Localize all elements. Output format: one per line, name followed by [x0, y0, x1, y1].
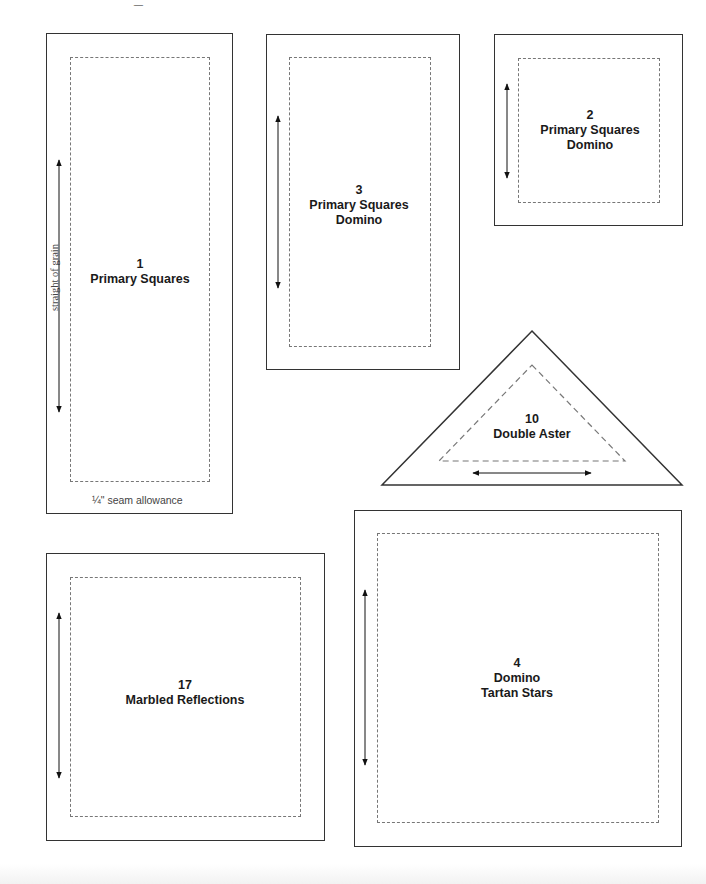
- piece-number: 10: [493, 412, 570, 427]
- piece-10-label: 10 Double Aster: [493, 412, 570, 442]
- piece-name: Double Aster: [493, 427, 570, 442]
- template-piece-10: [382, 331, 682, 485]
- shapes-overlay: [0, 0, 706, 884]
- page-bottom-edge: [0, 864, 706, 884]
